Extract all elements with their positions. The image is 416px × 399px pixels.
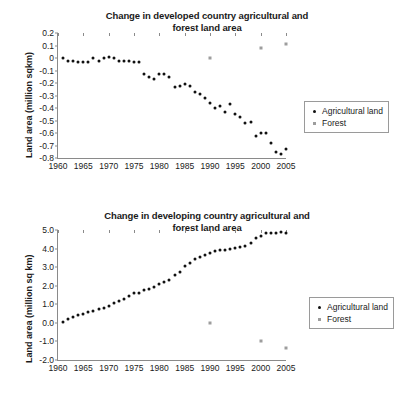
plot-area-developed: 0.20.10-0.1-0.2-0.3-0.4-0.5-0.6-0.7-0.81… [57,33,286,159]
square-marker-icon [309,117,319,129]
data-point [67,59,70,62]
data-point [188,84,191,87]
data-point [239,245,242,248]
data-point [107,55,110,58]
legend-item-forest[interactable]: Forest [309,117,383,129]
data-point [279,231,282,234]
x-axis-tick-label: 2000 [251,158,270,171]
data-point [285,231,288,234]
x-axis-tick-label: 1980 [150,360,169,373]
data-point [122,297,125,300]
data-point [285,148,288,151]
y-axis-tick-mark [55,58,58,59]
y-axis-tick-mark [55,322,58,323]
y-axis-tick-mark [55,285,58,286]
data-point [183,265,186,268]
x-axis-tick-label: 1990 [201,158,220,171]
data-point [254,134,257,137]
legend-label-forest: Forest [322,117,346,129]
data-point [102,307,105,310]
data-point [249,242,252,245]
data-point [67,318,70,321]
legend-developing[interactable]: Agricultural land Forest [309,297,394,329]
data-point [224,110,227,113]
data-point [244,122,247,125]
y-axis-tick-mark [55,45,58,46]
y-axis-tick-mark [55,70,58,71]
data-point [138,60,141,63]
x-axis-tick-label: 1995 [226,158,245,171]
data-point [219,249,222,252]
legend-item-forest[interactable]: Forest [314,313,388,325]
x-axis-tick-mark [185,230,186,233]
x-axis-tick-mark [134,33,135,36]
x-axis-tick-label: 1995 [226,360,245,373]
data-point [138,291,141,294]
y-axis-tick-mark [55,248,58,249]
data-point [183,83,186,86]
y-axis-tick-mark [55,304,58,305]
data-point [102,57,105,60]
data-point [127,59,130,62]
data-point [97,59,100,62]
data-point [178,270,181,273]
x-axis-tick-label: 1960 [49,360,68,373]
data-point [82,60,85,63]
data-point [198,255,201,258]
data-point [97,308,100,311]
x-axis-tick-mark [159,33,160,36]
legend-developed[interactable]: Agricultural land Forest [304,101,389,133]
data-point [229,247,232,250]
data-point [173,85,176,88]
x-axis-tick-mark [159,230,160,233]
x-axis-tick-mark [83,33,84,36]
data-point [117,299,120,302]
x-axis-tick-mark [58,230,59,233]
dot-marker-icon [309,105,319,117]
chart-title-line2: forest land area [172,22,241,33]
x-axis-tick-label: 1985 [175,158,194,171]
data-point [224,248,227,251]
data-point [127,294,130,297]
y-axis-tick-mark [55,108,58,109]
legend-label-agricultural-land: Agricultural land [322,105,383,117]
data-point [249,120,252,123]
data-point [92,57,95,60]
x-axis-tick-mark [235,230,236,233]
data-point [87,311,90,314]
x-axis-tick-mark [185,33,186,36]
data-point [214,250,217,253]
data-point [234,246,237,249]
data-point [209,102,212,105]
square-marker-icon [314,313,324,325]
y-axis-tick-mark [55,133,58,134]
legend-item-agricultural-land[interactable]: Agricultural land [309,105,383,117]
data-point [168,279,171,282]
data-point [62,57,65,60]
data-point [62,320,65,323]
data-point [285,346,288,349]
data-point [203,97,206,100]
data-point [72,59,75,62]
chart-title-line1: Change in developing country agricultura… [104,210,310,221]
data-point [203,254,206,257]
data-point [214,107,217,110]
data-point [158,282,161,285]
x-axis-tick-label: 1965 [74,158,93,171]
data-point [259,47,262,50]
x-axis-tick-label: 1970 [99,360,118,373]
x-axis-tick-label: 2000 [251,360,270,373]
data-point [259,132,262,135]
data-point [77,60,80,63]
x-axis-tick-label: 1985 [175,360,194,373]
data-point [209,57,212,60]
data-point [148,287,151,290]
data-point [219,104,222,107]
chart-panel-developing: Change in developing country agricultura… [0,200,416,399]
x-axis-tick-label: 1970 [99,158,118,171]
data-point [209,321,212,324]
x-axis-tick-mark [235,33,236,36]
legend-item-agricultural-land[interactable]: Agricultural land [314,301,388,313]
data-point [193,90,196,93]
data-point [259,234,262,237]
